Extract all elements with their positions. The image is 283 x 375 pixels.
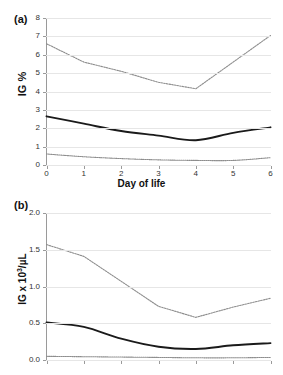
pa-gridline (46, 55, 271, 56)
pa-gridline (46, 92, 271, 93)
pb-y-tickmark (43, 250, 46, 251)
panel-b-y-axis-title-exponent: 3 (16, 268, 23, 272)
panel-b-y-axis-title-unit: /µL (17, 253, 28, 268)
pb-x-tickmark (159, 361, 160, 364)
pa-y-tick-label: 8 (18, 13, 40, 22)
pa-y-tick-label: 2 (18, 123, 40, 132)
pa-y-tick-label: 3 (18, 105, 40, 114)
pa-gridline (46, 110, 271, 111)
pa-gridline (46, 73, 271, 74)
panel-a-upper-series (47, 35, 271, 88)
pb-y-tick-label: 1.0 (18, 282, 40, 291)
pb-x-tickmark (271, 361, 272, 364)
pa-x-tick-label: 2 (113, 169, 129, 178)
pb-x-tickmark (121, 361, 122, 364)
pb-gridline (46, 213, 271, 214)
pb-x-tickmark (47, 361, 48, 364)
pa-y-tickmark (43, 36, 46, 37)
pa-y-tickmark (43, 110, 46, 111)
pa-y-tick-label: 6 (18, 50, 40, 59)
panel-a: (a) IG % Day of life 0123456780123456 (0, 0, 283, 195)
panel-b: (b) IG x 103/µL 0.00.51.01.52.0 (0, 195, 283, 375)
panel-a-plot-area (46, 18, 271, 166)
pa-y-tickmark (43, 128, 46, 129)
panel-b-plot-area (46, 213, 271, 361)
pa-y-tick-label: 0 (18, 160, 40, 169)
pb-gridline (46, 323, 271, 324)
pb-y-tickmark (43, 213, 46, 214)
pa-gridline (46, 128, 271, 129)
pa-x-tick-label: 3 (151, 169, 167, 178)
pa-y-tick-label: 5 (18, 68, 40, 77)
panel-b-middle-series (47, 323, 271, 349)
pb-y-tickmark (43, 323, 46, 324)
pa-y-tick-label: 1 (18, 142, 40, 151)
pa-y-tickmark (43, 18, 46, 19)
pa-x-tick-label: 5 (225, 169, 241, 178)
panel-b-lower-series (47, 356, 271, 358)
pb-y-tick-label: 2.0 (18, 208, 40, 217)
pa-x-tick-label: 0 (39, 169, 55, 178)
pa-y-tickmark (43, 55, 46, 56)
pb-y-tick-label: 0.5 (18, 318, 40, 327)
panel-a-lower-series (47, 154, 271, 161)
pa-gridline (46, 147, 271, 148)
pb-y-tick-label: 1.5 (18, 245, 40, 254)
panel-a-x-axis-title: Day of life (0, 178, 283, 189)
pb-gridline (46, 250, 271, 251)
pb-gridline (46, 287, 271, 288)
pb-y-tickmark (43, 287, 46, 288)
pa-y-tickmark (43, 92, 46, 93)
pa-gridline (46, 18, 271, 19)
pb-x-tickmark (84, 361, 85, 364)
pb-x-tickmark (233, 361, 234, 364)
pa-x-tick-label: 4 (188, 169, 204, 178)
pa-x-tick-label: 1 (76, 169, 92, 178)
figure-container: (a) IG % Day of life 0123456780123456 (b… (0, 0, 283, 375)
pa-y-tickmark (43, 147, 46, 148)
panel-b-upper-series (47, 245, 271, 318)
pb-x-tickmark (196, 361, 197, 364)
pa-x-tick-label: 6 (263, 169, 279, 178)
pa-gridline (46, 36, 271, 37)
pa-y-tickmark (43, 73, 46, 74)
pb-y-tick-label: 0.0 (18, 355, 40, 364)
pa-y-tick-label: 4 (18, 87, 40, 96)
pa-y-tick-label: 7 (18, 31, 40, 40)
